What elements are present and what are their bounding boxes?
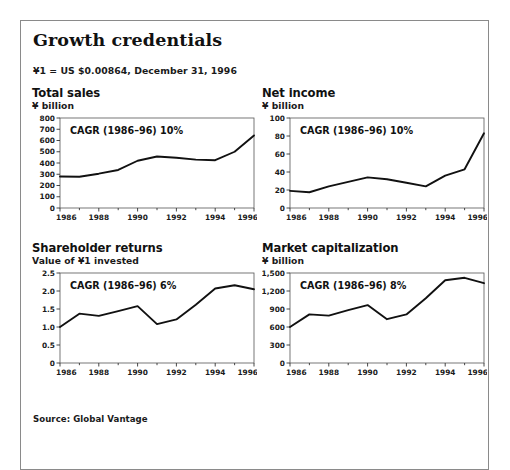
x-tick-label: 1994 [205,368,226,377]
chart-title-shareholder-returns: Shareholder returns [32,242,257,255]
y-tick-label: 1.0 [42,323,55,332]
cagr-annotation: CAGR (1986–96) 10% [70,125,183,136]
chart-panel-shareholder-returns: Shareholder returns Value of ¥1 invested… [32,242,257,381]
y-tick-label: 0.5 [42,341,55,350]
x-tick-label: 1994 [205,213,226,222]
y-tick-label: 1.5 [42,305,55,314]
y-tick-label: 0 [280,204,285,213]
y-tick-label: 100 [40,192,55,201]
chart-subtitle-market-capitalization: ¥ billion [262,255,487,266]
y-tick-label: 2.5 [42,269,55,278]
y-tick-label: 80 [275,132,285,141]
chart-svg-net-income: 020406080100198619881990199219941996CAGR… [262,114,487,226]
y-tick-label: 600 [40,136,55,145]
y-tick-label: 300 [40,170,55,179]
chart-panel-net-income: Net income ¥ billion 0204060801001986198… [262,87,487,226]
cagr-annotation: CAGR (1986–96) 8% [300,280,407,291]
y-tick-label: 0 [50,204,55,213]
source-note: Source: Global Vantage [33,414,148,424]
y-tick-label: 600 [270,323,285,332]
x-tick-label: 1994 [435,213,456,222]
y-tick-label: 800 [40,114,55,123]
data-line-total-sales [60,135,254,176]
y-tick-label: 500 [40,147,55,156]
chart-plot-market-capitalization: 03006009001,2001,50019861988199019921994… [262,269,487,381]
x-tick-label: 1990 [127,213,148,222]
exhibit-frame: Growth credentials ¥1 = US $0.00864, Dec… [20,20,489,470]
x-tick-label: 1988 [319,213,340,222]
chart-plot-shareholder-returns: 00.51.01.52.02.5198619881990199219941996… [32,269,257,381]
x-tick-label: 1994 [435,368,456,377]
chart-title-net-income: Net income [262,87,487,100]
x-tick-label: 1996 [237,368,257,377]
y-tick-label: 2.0 [42,287,55,296]
y-tick-label: 400 [40,159,55,168]
y-tick-label: 0 [280,359,285,368]
x-tick-label: 1986 [286,213,307,222]
x-tick-label: 1990 [357,213,378,222]
chart-panel-total-sales: Total sales ¥ billion 010020030040050060… [32,87,257,226]
y-tick-label: 1,200 [262,287,285,296]
x-tick-label: 1988 [89,368,110,377]
x-tick-label: 1992 [396,368,417,377]
cagr-annotation: CAGR (1986–96) 6% [70,280,177,291]
chart-subtitle-net-income: ¥ billion [262,100,487,111]
chart-title-total-sales: Total sales [32,87,257,100]
x-tick-label: 1990 [127,368,148,377]
x-tick-label: 1988 [89,213,110,222]
y-tick-label: 60 [275,150,285,159]
y-tick-label: 700 [40,125,55,134]
chart-svg-shareholder-returns: 00.51.01.52.02.5198619881990199219941996… [32,269,257,381]
y-tick-label: 40 [275,168,285,177]
chart-plot-total-sales: 0100200300400500600700800198619881990199… [32,114,257,226]
chart-panel-market-capitalization: Market capitalization ¥ billion 03006009… [262,242,487,381]
x-tick-label: 1996 [237,213,257,222]
cagr-annotation: CAGR (1986–96) 10% [300,125,413,136]
y-tick-label: 900 [270,305,285,314]
x-tick-label: 1996 [467,368,487,377]
page-title: Growth credentials [33,30,222,50]
y-tick-label: 100 [270,114,285,123]
data-line-net-income [290,133,484,192]
chart-subtitle-shareholder-returns: Value of ¥1 invested [32,255,257,266]
chart-subtitle-total-sales: ¥ billion [32,100,257,111]
y-tick-label: 200 [40,181,55,190]
x-tick-label: 1992 [166,213,187,222]
chart-svg-total-sales: 0100200300400500600700800198619881990199… [32,114,257,226]
data-line-shareholder-returns [60,285,254,327]
y-tick-label: 300 [270,341,285,350]
x-tick-label: 1992 [166,368,187,377]
x-tick-label: 1986 [56,213,77,222]
x-tick-label: 1996 [467,213,487,222]
exchange-rate-note: ¥1 = US $0.00864, December 31, 1996 [33,65,237,76]
chart-svg-market-capitalization: 03006009001,2001,50019861988199019921994… [262,269,487,381]
chart-plot-net-income: 020406080100198619881990199219941996CAGR… [262,114,487,226]
x-tick-label: 1986 [286,368,307,377]
chart-title-market-capitalization: Market capitalization [262,242,487,255]
y-tick-label: 0 [50,359,55,368]
x-tick-label: 1986 [56,368,77,377]
x-tick-label: 1988 [319,368,340,377]
y-tick-label: 1,500 [262,269,285,278]
x-tick-label: 1992 [396,213,417,222]
y-tick-label: 20 [275,186,285,195]
x-tick-label: 1990 [357,368,378,377]
